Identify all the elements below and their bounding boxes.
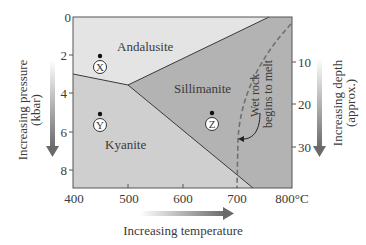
pressure-axis-label-line2: (kbar)	[28, 94, 43, 126]
y-tick-2: 2	[61, 48, 68, 63]
x-tick-600: 600	[173, 191, 193, 206]
melt-label-line2: begins to melt	[261, 59, 275, 128]
depth-axis-label-line2: (approx.)	[343, 79, 358, 127]
y-tick-6: 6	[61, 125, 68, 140]
y-tick-8: 8	[61, 163, 68, 178]
depth-tick-30: 30	[298, 140, 311, 155]
andalusite-label: Andalusite	[117, 39, 174, 54]
depth-arrow-icon	[313, 58, 326, 157]
marker-y-label: Y	[96, 119, 104, 131]
pressure-arrow-icon	[46, 60, 59, 157]
right-axis	[292, 62, 296, 147]
temperature-axis-label: Increasing temperature	[123, 223, 243, 238]
x-tick-500: 500	[119, 191, 139, 206]
depth-tick-10: 10	[298, 55, 311, 70]
phase-diagram: 0 2 4 6 8 10 20 30 400 500 600 700 800°C…	[0, 0, 366, 245]
y-tick-0: 0	[65, 10, 72, 25]
melt-label-line1: Wet rock	[248, 74, 262, 117]
depth-tick-20: 20	[298, 97, 311, 112]
x-tick-400: 400	[64, 191, 84, 206]
marker-z-label: Z	[209, 118, 216, 130]
left-axis	[69, 55, 73, 170]
y-tick-4: 4	[61, 86, 68, 101]
kyanite-label: Kyanite	[105, 137, 146, 152]
x-tick-800: 800°C	[275, 191, 308, 206]
sillimanite-label: Sillimanite	[174, 81, 231, 96]
temperature-arrow-icon	[140, 207, 234, 220]
x-tick-700: 700	[227, 191, 247, 206]
marker-x-label: X	[96, 61, 104, 73]
